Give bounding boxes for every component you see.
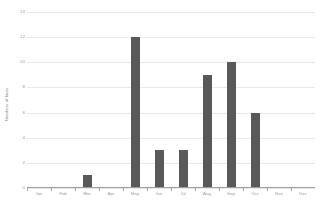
x-axis-tick-mark [51, 188, 52, 191]
bar[interactable] [227, 62, 236, 188]
y-axis-title-text: Numbers of birds [5, 88, 10, 121]
y-axis-tick-label: 8 [23, 85, 25, 89]
y-axis-tick-label: 12 [20, 35, 25, 39]
y-axis-tick-label: 10 [20, 60, 25, 64]
x-axis-tick-mark [219, 188, 220, 191]
bar[interactable] [131, 37, 140, 188]
bar-slot [27, 12, 51, 188]
x-axis-tick-mark [291, 188, 292, 191]
x-axis-tick-mark [147, 188, 148, 191]
y-axis-title: Numbers of birds [0, 0, 14, 209]
x-axis-tick-mark [267, 188, 268, 191]
bar-slot [291, 12, 315, 188]
bar-slot [123, 12, 147, 188]
bar-slot [243, 12, 267, 188]
x-axis-tick-label: Sep [219, 192, 243, 204]
x-axis-tick-label: Jan [27, 192, 51, 204]
x-axis-tick-label: Jul [171, 192, 195, 204]
x-axis-tick-label: Jun [147, 192, 171, 204]
y-axis-tick-label: 0 [23, 186, 25, 190]
x-axis-tick-labels: JanFebMarAprMayJunJulAugSepOctNovDec [27, 192, 315, 204]
bar[interactable] [155, 150, 164, 188]
y-axis-tick-labels: 02468101214 [14, 12, 26, 188]
bar[interactable] [203, 75, 212, 188]
bar-slot [99, 12, 123, 188]
bar[interactable] [251, 113, 260, 188]
x-axis-tick-mark [99, 188, 100, 191]
x-axis-tick-mark [243, 188, 244, 191]
bar-slot [51, 12, 75, 188]
x-axis-tick-label: Apr [99, 192, 123, 204]
y-axis-tick-label: 6 [23, 110, 25, 114]
x-axis-tick-label: Aug [195, 192, 219, 204]
x-axis-tick-mark [27, 188, 28, 191]
y-axis-tick-label: 4 [23, 136, 25, 140]
x-axis-tick-mark [123, 188, 124, 191]
bar-slot [171, 12, 195, 188]
x-axis-tick-label: Feb [51, 192, 75, 204]
bar[interactable] [179, 150, 188, 188]
y-axis-tick-label: 14 [20, 10, 25, 14]
bar-slot [267, 12, 291, 188]
bars-layer [27, 12, 315, 188]
x-axis-tick-label: May [123, 192, 147, 204]
x-axis-tick-label: Oct [243, 192, 267, 204]
x-axis-tick-mark [195, 188, 196, 191]
x-axis-tick-label: Nov [267, 192, 291, 204]
plot-area [27, 12, 315, 188]
bar-slot [195, 12, 219, 188]
bar-slot [75, 12, 99, 188]
x-axis-tick-label: Mar [75, 192, 99, 204]
bar-slot [147, 12, 171, 188]
bar-chart: Numbers of birds 02468101214 JanFebMarAp… [0, 0, 322, 209]
x-axis-tick-mark [75, 188, 76, 191]
x-axis-tick-marks [27, 188, 315, 191]
bar-slot [219, 12, 243, 188]
y-axis-tick-label: 2 [23, 161, 25, 165]
x-axis-tick-mark [171, 188, 172, 191]
x-axis-tick-label: Dec [291, 192, 315, 204]
